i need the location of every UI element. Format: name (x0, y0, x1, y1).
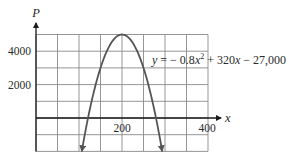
equation-label: y = − 0.8x2 + 320x − 27,000 (151, 52, 286, 67)
y-axis-label: P (31, 6, 40, 20)
axis-labels: 20004000200400Pxy = − 0.8x2 + 320x − 27,… (8, 6, 286, 134)
x-tick-label: 400 (198, 122, 216, 134)
parabola-chart: 20004000200400Pxy = − 0.8x2 + 320x − 27,… (0, 0, 289, 161)
x-axis-label: x (224, 111, 231, 125)
y-tick-label: 2000 (8, 79, 31, 91)
x-tick-label: 200 (113, 122, 131, 134)
y-tick-label: 4000 (8, 45, 31, 57)
